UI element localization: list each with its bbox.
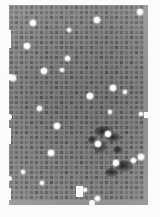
grid-cell	[130, 36, 133, 39]
grid-cell	[60, 16, 63, 19]
grid-cell	[100, 166, 103, 169]
grid-cell	[65, 36, 68, 39]
grid-cell	[130, 171, 133, 174]
grid-cell	[90, 191, 93, 194]
grid-cell	[25, 36, 28, 39]
grid-cell	[105, 26, 108, 29]
grid-cell	[130, 111, 133, 114]
grid-cell	[130, 146, 133, 149]
grid-cell	[65, 191, 68, 194]
grid-cell	[80, 36, 83, 39]
grid-cell	[90, 51, 93, 54]
grid-cell	[85, 86, 88, 89]
grid-cell	[70, 171, 73, 174]
edge-notch	[6, 30, 11, 48]
grid-cell	[60, 146, 63, 149]
grid-cell	[15, 151, 18, 154]
grid-cell	[25, 141, 28, 144]
grid-cell	[30, 106, 33, 109]
grid-cell	[10, 106, 13, 109]
grid-cell	[100, 61, 103, 64]
grid-cell	[105, 11, 108, 14]
grid-cell	[125, 36, 128, 39]
grid-cell	[15, 161, 18, 164]
grid-cell	[50, 181, 53, 184]
grid-cell	[30, 46, 33, 49]
grid-cell	[90, 86, 93, 89]
grid-cell	[125, 56, 128, 59]
grid-cell	[85, 176, 88, 179]
grid-cell	[10, 56, 13, 59]
grid-cell	[60, 6, 63, 9]
grid-cell	[35, 161, 38, 164]
grid-cell	[35, 101, 38, 104]
grid-cell	[125, 6, 128, 9]
grid-cell	[75, 41, 78, 44]
grid-cell	[80, 41, 83, 44]
grid-cell	[30, 166, 33, 169]
grid-cell	[90, 111, 93, 114]
grid-cell	[95, 156, 98, 159]
grid-cell	[135, 151, 138, 154]
grid-cell	[35, 91, 38, 94]
grid-cell	[100, 11, 103, 14]
grid-cell	[110, 156, 113, 159]
grid-cell	[70, 176, 73, 179]
grid-cell	[15, 31, 18, 34]
grid-cell	[105, 56, 108, 59]
grid-cell	[95, 76, 98, 79]
grid-cell	[140, 51, 143, 54]
grid-cell	[125, 101, 128, 104]
grid-cell	[20, 181, 23, 184]
grid-cell	[100, 86, 103, 89]
grid-cell	[75, 31, 78, 34]
grid-cell	[20, 6, 23, 9]
grid-cell	[120, 191, 123, 194]
grid-cell	[40, 171, 43, 174]
grid-cell	[130, 106, 133, 109]
grid-cell	[65, 141, 68, 144]
edge-notch	[6, 128, 11, 144]
grid-cell	[60, 91, 63, 94]
grid-cell	[95, 181, 98, 184]
grid-cell	[135, 76, 138, 79]
grid-cell	[65, 86, 68, 89]
grid-cell	[30, 36, 33, 39]
grid-cell	[45, 176, 48, 179]
grid-cell	[75, 131, 78, 134]
grid-cell	[125, 121, 128, 124]
grid-cell	[90, 61, 93, 64]
grid-cell	[45, 186, 48, 189]
grid-cell	[90, 6, 93, 9]
grid-cell	[20, 36, 23, 39]
grid-cell	[70, 11, 73, 14]
grid-cell	[65, 186, 68, 189]
grid-cell	[125, 26, 128, 29]
grid-cell	[60, 151, 63, 154]
grid-cell	[110, 46, 113, 49]
grid-cell	[95, 51, 98, 54]
grid-cell	[65, 116, 68, 119]
grid-cell	[140, 141, 143, 144]
grid-cell	[20, 141, 23, 144]
grid-cell	[120, 6, 123, 9]
grid-cell	[60, 131, 63, 134]
edge-notch	[89, 200, 95, 206]
grid-cell	[140, 161, 143, 164]
grid-cell	[105, 51, 108, 54]
grid-cell	[15, 86, 18, 89]
grid-cell	[50, 191, 53, 194]
grid-cell	[35, 156, 38, 159]
grid-cell	[140, 46, 143, 49]
grid-cell	[110, 31, 113, 34]
grid-cell	[75, 76, 78, 79]
grid-cell	[140, 66, 143, 69]
grid-cell	[130, 31, 133, 34]
grid-cell	[50, 176, 53, 179]
scan-streak	[76, 48, 77, 62]
grid-cell	[125, 11, 128, 14]
grid-cell	[110, 81, 113, 84]
grid-cell	[125, 176, 128, 179]
grid-cell	[15, 61, 18, 64]
grid-cell	[35, 126, 38, 129]
